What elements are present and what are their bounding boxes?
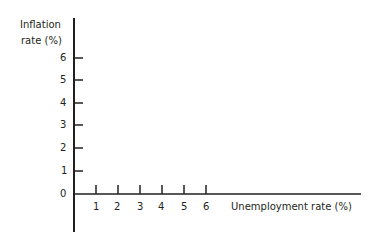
x-tick-label-1: 1 xyxy=(93,201,99,213)
y-axis-title-line1: Inflation xyxy=(20,19,61,31)
origin-label: 0 xyxy=(60,188,66,200)
x-tick-label-4: 4 xyxy=(158,201,164,213)
y-axis-title-line2: rate (%) xyxy=(21,35,62,47)
x-axis-title: Unemployment rate (%) xyxy=(231,201,352,213)
x-tick-label-5: 5 xyxy=(181,201,187,213)
y-tick-label-3: 3 xyxy=(60,119,66,131)
y-tick-label-5: 5 xyxy=(60,74,66,86)
y-ticks xyxy=(74,58,83,171)
x-tick-label-2: 2 xyxy=(114,201,120,213)
x-tick-label-6: 6 xyxy=(203,201,209,213)
y-tick-label-6: 6 xyxy=(60,52,66,64)
x-tick-label-3: 3 xyxy=(137,201,143,213)
y-tick-label-1: 1 xyxy=(61,165,67,177)
x-ticks xyxy=(96,185,206,194)
y-tick-label-4: 4 xyxy=(60,97,66,109)
y-tick-label-2: 2 xyxy=(60,142,66,154)
